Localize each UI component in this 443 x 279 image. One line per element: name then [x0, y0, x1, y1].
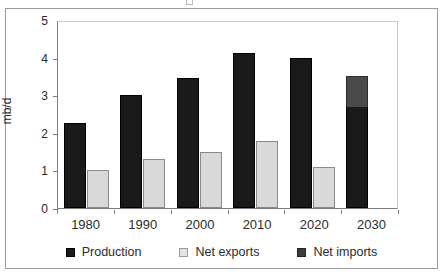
bar-production[interactable]	[120, 95, 142, 208]
x-axis-tick-label: 2000	[171, 210, 228, 232]
bar-net-imports[interactable]	[346, 76, 368, 107]
x-axis-tick-mark	[341, 210, 342, 214]
x-axis-tick-mark	[398, 210, 399, 214]
x-axis-tick-mark	[57, 210, 58, 214]
plot-area	[57, 21, 398, 209]
x-axis-tick-mark	[284, 210, 285, 214]
legend-item[interactable]: Production	[66, 245, 142, 259]
bar-production[interactable]	[64, 123, 86, 208]
legend-swatch-net-exports-icon	[179, 248, 188, 257]
bar-net-exports[interactable]	[313, 167, 335, 208]
bar-group	[341, 22, 398, 208]
bar-net-exports[interactable]	[143, 159, 165, 208]
legend-item-label: Net imports	[313, 245, 377, 259]
legend-item[interactable]: Net imports	[297, 245, 377, 259]
legend-item-label: Production	[82, 245, 142, 259]
cropped-glyph-artifact	[186, 0, 193, 5]
y-axis-tick-label: 0	[0, 202, 57, 216]
y-axis-tick-label: 3	[0, 89, 57, 103]
bar-net-exports[interactable]	[87, 170, 109, 208]
x-axis-tick-label: 2020	[286, 210, 343, 232]
legend-item[interactable]: Net exports	[179, 245, 259, 259]
chart-legend: ProductionNet exportsNet imports	[0, 245, 443, 259]
x-axis-tick-label: 1980	[57, 210, 114, 232]
bar-group	[171, 22, 228, 208]
x-axis-tick-mark	[114, 210, 115, 214]
chart-figure: mb/d 012345 198019902000201020202030 Pro…	[0, 0, 443, 279]
y-axis-tick-label: 4	[0, 52, 57, 66]
legend-item-label: Net exports	[195, 245, 259, 259]
bar-group	[115, 22, 172, 208]
y-axis-tick-label: 5	[0, 14, 57, 28]
x-axis: 198019902000201020202030	[57, 210, 400, 232]
y-axis-tick-label: 1	[0, 164, 57, 178]
y-axis-tick-label: 2	[0, 127, 57, 141]
x-axis-tick-mark	[171, 210, 172, 214]
bar-production[interactable]	[346, 106, 368, 208]
x-axis-tick-mark	[228, 210, 229, 214]
bar-groups	[58, 22, 397, 208]
x-axis-tick-label: 2030	[343, 210, 400, 232]
bar-group	[58, 22, 115, 208]
bar-group	[228, 22, 285, 208]
legend-swatch-production-icon	[66, 248, 75, 257]
bar-production[interactable]	[290, 58, 312, 208]
bar-group	[284, 22, 341, 208]
x-axis-tick-label: 1990	[114, 210, 171, 232]
bar-net-exports[interactable]	[200, 152, 222, 208]
x-axis-tick-label: 2010	[229, 210, 286, 232]
legend-swatch-net-imports-icon	[297, 248, 306, 257]
bar-production[interactable]	[177, 78, 199, 208]
bar-production[interactable]	[233, 53, 255, 208]
bar-net-exports[interactable]	[256, 141, 278, 208]
